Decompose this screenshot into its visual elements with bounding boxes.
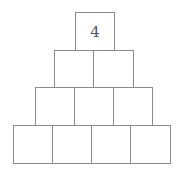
pyramid-cell-r3-c2 xyxy=(74,87,114,126)
pyramid-cell-r1-c1: 4 xyxy=(75,12,115,51)
pyramid-cell-r4-c1 xyxy=(13,125,53,164)
pyramid-cell-r4-c4 xyxy=(130,125,171,164)
pyramid-cell-r4-c2 xyxy=(52,125,92,164)
pyramid-cell-r3-c3 xyxy=(113,87,153,126)
pyramid-cell-r2-c1 xyxy=(54,50,94,88)
pyramid-cell-r4-c3 xyxy=(91,125,131,164)
pyramid-cell-r3-c1 xyxy=(35,87,75,126)
pyramid-cell-r2-c2 xyxy=(93,50,134,88)
